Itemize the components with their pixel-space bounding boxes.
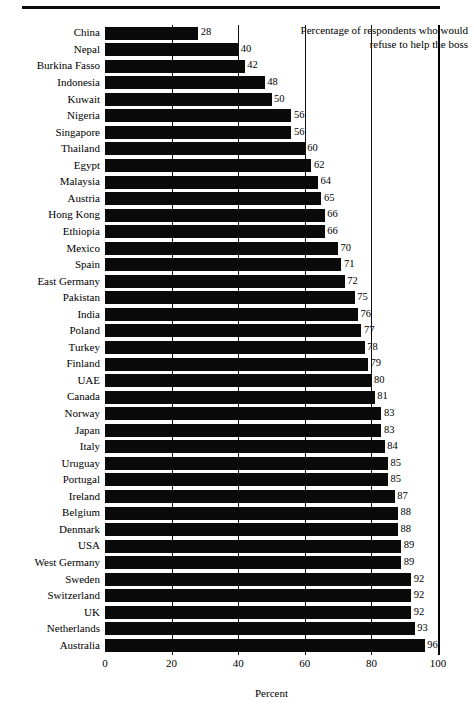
category-label: Nigeria	[67, 108, 100, 123]
bar-row: Italy84	[105, 439, 438, 456]
bar-value-label: 89	[401, 538, 414, 553]
bar-row: China28	[105, 25, 438, 42]
category-label: Denmark	[59, 522, 100, 537]
bar-value-label: 84	[385, 439, 398, 454]
bar	[105, 225, 325, 238]
bar	[105, 159, 311, 172]
bar-row: Nepal40	[105, 42, 438, 59]
bar	[105, 192, 321, 205]
bar-value-label: 93	[415, 621, 428, 636]
bar-row: Canada81	[105, 389, 438, 406]
bar	[105, 440, 385, 453]
bar-row: Indonesia48	[105, 75, 438, 92]
bar	[105, 490, 395, 503]
bar-value-label: 89	[401, 555, 414, 570]
bar-row: Spain71	[105, 257, 438, 274]
bar	[105, 457, 388, 470]
bar-value-label: 88	[398, 522, 411, 537]
x-tick-label: 20	[166, 656, 177, 670]
bar	[105, 258, 341, 271]
bar-row: Singapore56	[105, 124, 438, 141]
bar-value-label: 62	[311, 158, 324, 173]
bar-row: Belgium88	[105, 505, 438, 522]
bar	[105, 109, 291, 122]
bar	[105, 556, 401, 569]
bar	[105, 275, 345, 288]
bar-row: UAE80	[105, 373, 438, 390]
bar-row: Japan83	[105, 422, 438, 439]
bar-row: Norway83	[105, 406, 438, 423]
bar-value-label: 87	[395, 489, 408, 504]
bar-row: UK92	[105, 604, 438, 621]
bar	[105, 540, 401, 553]
bar	[105, 341, 365, 354]
category-label: Belgium	[62, 505, 100, 520]
bar	[105, 407, 381, 420]
bar-value-label: 72	[345, 274, 358, 289]
bar	[105, 308, 358, 321]
category-label: Pakistan	[63, 290, 100, 305]
category-label: Portugal	[63, 472, 100, 487]
bar-value-label: 83	[381, 406, 394, 421]
bar-row: Switzerland92	[105, 588, 438, 605]
bar-value-label: 48	[265, 75, 278, 90]
category-label: USA	[78, 538, 100, 553]
bar-row: Kuwait50	[105, 91, 438, 108]
bar	[105, 523, 398, 536]
bar-value-label: 76	[358, 307, 371, 322]
bar-value-label: 50	[272, 92, 285, 107]
bar-row: Portugal85	[105, 472, 438, 489]
bar	[105, 589, 411, 602]
axis-line-right	[438, 25, 440, 655]
bar-value-label: 85	[388, 472, 401, 487]
category-label: Burkina Fasso	[37, 58, 100, 73]
category-label: Hong Kong	[48, 207, 100, 222]
bar-value-label: 75	[355, 290, 368, 305]
bar-row: India76	[105, 306, 438, 323]
bar-row: Turkey78	[105, 339, 438, 356]
category-label: Austria	[68, 191, 100, 206]
category-label: Kuwait	[68, 92, 100, 107]
category-label: Canada	[67, 389, 100, 404]
bar-value-label: 92	[411, 588, 424, 603]
bar	[105, 573, 411, 586]
category-label: Spain	[75, 257, 100, 272]
bar-row: Nigeria56	[105, 108, 438, 125]
category-label: Sweden	[65, 572, 100, 587]
bar-value-label: 65	[321, 191, 334, 206]
bar-value-label: 85	[388, 456, 401, 471]
bar-value-label: 64	[318, 174, 331, 189]
bar-row: Pakistan75	[105, 290, 438, 307]
category-label: East Germany	[37, 274, 100, 289]
bar-row: Burkina Fasso42	[105, 58, 438, 75]
category-label: Ireland	[69, 489, 100, 504]
bar-row: USA89	[105, 538, 438, 555]
bar	[105, 27, 198, 40]
bar-row: Netherlands93	[105, 621, 438, 638]
category-label: Nepal	[74, 42, 100, 57]
bar-value-label: 42	[245, 58, 258, 73]
bar	[105, 507, 398, 520]
bar-chart-figure: Percentage of respondents who would refu…	[0, 0, 474, 717]
bar	[105, 606, 411, 619]
bar	[105, 374, 371, 387]
bar-row: Poland77	[105, 323, 438, 340]
bar-value-label: 77	[361, 323, 374, 338]
bar-row: Ireland87	[105, 488, 438, 505]
bar-value-label: 92	[411, 572, 424, 587]
bar-value-label: 83	[381, 423, 394, 438]
bar-row: Australia96	[105, 637, 438, 654]
bar-row: Austria65	[105, 191, 438, 208]
bar-value-label: 80	[371, 373, 384, 388]
x-tick-label: 60	[299, 656, 310, 670]
category-label: Norway	[65, 406, 100, 421]
bar-row: Malaysia64	[105, 174, 438, 191]
bar-value-label: 56	[291, 108, 304, 123]
x-tick-label: 100	[430, 656, 447, 670]
x-axis: 020406080100	[105, 655, 438, 677]
bar	[105, 639, 425, 652]
bar-row: Sweden92	[105, 571, 438, 588]
bar-row: Egypt62	[105, 157, 438, 174]
bar	[105, 76, 265, 89]
bar-row: West Germany89	[105, 555, 438, 572]
